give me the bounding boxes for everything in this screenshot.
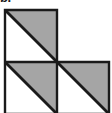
- geometry-figure: b.: [0, 0, 112, 113]
- tromino-diagram: [0, 0, 112, 113]
